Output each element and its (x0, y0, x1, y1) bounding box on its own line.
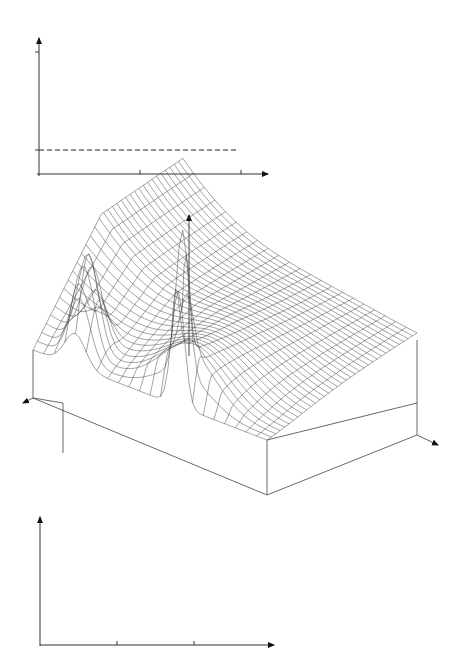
panel-b-x-axis (23, 398, 33, 403)
panel-a (35, 38, 268, 176)
figure (0, 0, 457, 670)
panel-b-box (33, 340, 417, 495)
panel-b-t-axis (417, 435, 438, 445)
panel-b-surface-mesh (33, 158, 417, 440)
panel-b (23, 158, 438, 495)
panel-b-surface-wireframe (33, 158, 417, 440)
